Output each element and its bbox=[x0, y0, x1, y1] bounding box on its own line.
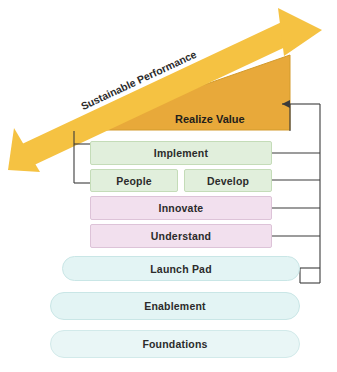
layer-foundations[interactable]: Foundations bbox=[50, 330, 300, 358]
layer-implement[interactable]: Implement bbox=[90, 141, 272, 165]
layer-enablement[interactable]: Enablement bbox=[50, 292, 300, 320]
layer-foundations-label: Foundations bbox=[142, 338, 207, 350]
layer-launch-pad-label: Launch Pad bbox=[150, 263, 212, 275]
layer-enablement-label: Enablement bbox=[144, 300, 206, 312]
layer-understand-label: Understand bbox=[151, 230, 211, 242]
realize-value-label: Realize Value bbox=[175, 113, 245, 125]
layer-develop[interactable]: Develop bbox=[184, 169, 272, 192]
layer-launch-pad[interactable]: Launch Pad bbox=[62, 256, 300, 281]
layer-understand[interactable]: Understand bbox=[90, 224, 272, 248]
layer-people[interactable]: People bbox=[90, 169, 178, 192]
layer-implement-label: Implement bbox=[154, 147, 208, 159]
layer-innovate[interactable]: Innovate bbox=[90, 196, 272, 220]
layer-innovate-label: Innovate bbox=[159, 202, 204, 214]
layer-people-label: People bbox=[116, 175, 152, 187]
layer-develop-label: Develop bbox=[207, 175, 249, 187]
sustainable-performance-diagram: Sustainable Performance Realize Value Im… bbox=[0, 0, 337, 372]
